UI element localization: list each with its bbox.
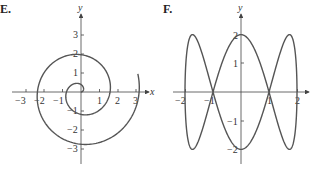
svg-text:−2: −2 — [67, 124, 78, 135]
y-ticks-f: 2 1 −1 −2 — [227, 30, 244, 155]
svg-text:−1: −1 — [53, 95, 64, 106]
figure: E. x y −3 −2 −1 1 2 3 3 2 1 — [0, 0, 315, 169]
svg-text:−3: −3 — [15, 95, 26, 106]
y-axis-label-e: y — [77, 2, 83, 13]
svg-text:−3: −3 — [67, 143, 78, 154]
x-ticks-e: −3 −2 −1 1 2 3 — [15, 89, 138, 106]
svg-text:−2: −2 — [34, 95, 45, 106]
svg-text:1: 1 — [233, 58, 238, 69]
svg-text:2: 2 — [73, 48, 78, 59]
chart-f: F. y −2 −1 1 2 2 1 −1 −2 — [163, 2, 309, 164]
y-axis-label-f: y — [237, 2, 243, 13]
x-ticks-f: −2 −1 1 2 — [175, 89, 300, 106]
svg-text:−2: −2 — [175, 95, 186, 106]
svg-text:1: 1 — [97, 95, 102, 106]
x-axis-label-e: x — [149, 86, 155, 97]
chart-e: E. x y −3 −2 −1 1 2 3 3 2 1 — [0, 2, 155, 164]
svg-text:3: 3 — [73, 29, 78, 40]
svg-text:−1: −1 — [227, 116, 238, 127]
panel-label-e: E. — [0, 2, 11, 16]
svg-text:1: 1 — [73, 67, 78, 78]
svg-text:−2: −2 — [227, 144, 238, 155]
panel-label-f: F. — [163, 2, 172, 16]
svg-text:2: 2 — [115, 95, 120, 106]
